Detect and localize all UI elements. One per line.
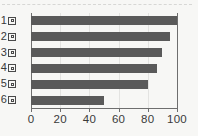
bar-row (31, 76, 148, 92)
bar (31, 48, 162, 57)
y-tick-label-number: 1 (1, 14, 7, 26)
x-tick-label: 20 (53, 113, 66, 126)
bar-row (31, 13, 177, 29)
x-tick-mark-100 (177, 108, 178, 112)
bar (31, 32, 170, 41)
bar (31, 64, 157, 73)
x-axis-line (31, 108, 178, 109)
y-tick-label-number: 4 (1, 61, 7, 73)
y-tick-label: 1 (1, 15, 16, 26)
bar (31, 16, 177, 25)
x-tick-label: 60 (112, 113, 125, 126)
bar (31, 80, 148, 89)
y-tick-label: 3 (1, 47, 16, 58)
gridline-100 (177, 13, 178, 108)
y-tick-label-number: 6 (1, 93, 7, 105)
x-tick-mark-20 (60, 108, 61, 112)
x-tick-label: 0 (28, 113, 35, 126)
bar (31, 96, 104, 105)
y-tick-label-number: 2 (1, 30, 7, 42)
x-tick-mark-80 (148, 108, 149, 112)
x-tick-label: 100 (167, 113, 187, 126)
missing-glyph-box-icon (8, 17, 16, 25)
x-tick-mark-60 (119, 108, 120, 112)
x-tick-mark-40 (89, 108, 90, 112)
missing-glyph-box-icon (8, 64, 16, 72)
y-tick-label-number: 3 (1, 46, 7, 58)
bar-row (31, 29, 170, 45)
missing-glyph-box-icon (8, 96, 16, 104)
missing-glyph-box-icon (8, 33, 16, 41)
x-tick-label: 80 (141, 113, 154, 126)
missing-glyph-box-icon (8, 80, 16, 88)
y-tick-label: 2 (1, 31, 16, 42)
y-tick-label-number: 5 (1, 77, 7, 89)
y-tick-label: 5 (1, 78, 16, 89)
top-clipped-rule (2, 4, 192, 5)
bar-row (31, 92, 104, 108)
bar-chart: 123456020406080100 (0, 0, 198, 136)
y-tick-label: 4 (1, 62, 16, 73)
x-tick-mark-0 (31, 108, 32, 112)
bar-row (31, 45, 162, 61)
x-tick-label: 40 (83, 113, 96, 126)
missing-glyph-box-icon (8, 49, 16, 57)
y-tick-label: 6 (1, 94, 16, 105)
bar-row (31, 61, 157, 77)
